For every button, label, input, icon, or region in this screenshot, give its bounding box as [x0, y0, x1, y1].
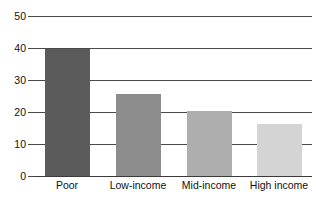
x-axis: Poor Low-income Mid-income High income: [35, 178, 312, 194]
bar-chart: 50 40 30 20 10 0 Poor Low-income Mid-inc…: [0, 0, 316, 200]
y-tick-mark-20: [28, 112, 35, 113]
y-tick-mark-30: [28, 80, 35, 81]
y-tick-label-20: 20: [0, 107, 26, 118]
y-tick-label-40: 40: [0, 43, 26, 54]
y-tick-label-50: 50: [0, 11, 26, 22]
bar-low-income: [116, 94, 161, 177]
y-tick-mark-40: [28, 48, 35, 49]
bar-poor: [45, 49, 90, 177]
x-tick-label-mid-income: Mid-income: [169, 178, 249, 192]
y-tick-label-0: 0: [0, 171, 26, 182]
y-tick-mark-0: [28, 176, 35, 177]
y-tick-label-30: 30: [0, 75, 26, 86]
y-tick-mark-50: [28, 16, 35, 17]
x-axis-baseline: [35, 176, 312, 177]
bar-mid-income: [187, 111, 232, 177]
y-tick-label-10: 10: [0, 139, 26, 150]
bars-group: [35, 16, 312, 177]
x-tick-label-poor: Poor: [27, 178, 107, 192]
x-tick-label-low-income: Low-income: [98, 178, 178, 192]
x-tick-label-high-income: High income: [239, 178, 316, 192]
bar-high-income: [257, 124, 302, 177]
y-tick-mark-10: [28, 144, 35, 145]
